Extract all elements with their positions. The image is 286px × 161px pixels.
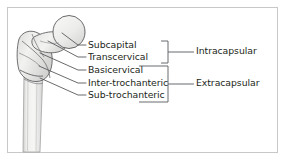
label-basicervical: Basicervical bbox=[88, 65, 143, 75]
label-intracapsular: Intracapsular bbox=[196, 46, 257, 56]
label-inter-trochanteric: Inter-trochanteric bbox=[88, 78, 168, 88]
diagram-canvas: Subcapital Transcervical Basicervical In… bbox=[0, 0, 286, 161]
proximal-femur-illustration bbox=[10, 8, 88, 154]
label-sub-trochanteric: Sub-trochanteric bbox=[88, 90, 165, 100]
label-transcervical: Transcervical bbox=[88, 52, 148, 62]
label-extracapsular: Extracapsular bbox=[196, 78, 259, 88]
femur-proximal-group bbox=[17, 16, 85, 84]
label-subcapital: Subcapital bbox=[88, 40, 136, 50]
